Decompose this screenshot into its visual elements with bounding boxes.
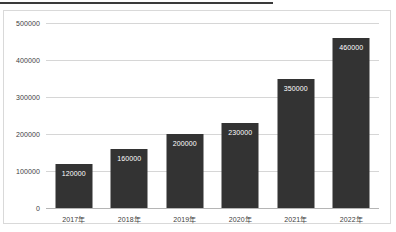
bar-group[interactable]: 1600002018年 — [102, 23, 158, 208]
x-axis-tick-label: 2019年 — [173, 214, 196, 224]
bar-value-label: 120000 — [62, 170, 86, 177]
bar-value-label: 200000 — [173, 140, 197, 147]
bar-value-label: 460000 — [339, 44, 363, 51]
top-divider-rule — [0, 2, 273, 4]
bar[interactable] — [277, 79, 314, 209]
bar-value-label: 230000 — [228, 129, 252, 136]
bar[interactable] — [333, 38, 370, 208]
y-axis-tick-label: 200000 — [16, 131, 40, 138]
bar-group[interactable]: 3500002021年 — [268, 23, 324, 208]
bars-layer: 1200002017年1600002018年2000002019年2300002… — [46, 23, 379, 208]
y-axis-tick-label: 0 — [36, 205, 40, 212]
y-axis-tick-label: 300000 — [16, 94, 40, 101]
bar-group[interactable]: 2300002020年 — [213, 23, 269, 208]
plot-area: 0100000200000300000400000500000 12000020… — [46, 23, 379, 208]
bar-group[interactable]: 4600002022年 — [324, 23, 380, 208]
x-axis-tick-label: 2020年 — [229, 214, 252, 224]
x-axis-tick-label: 2022年 — [340, 214, 363, 224]
bar-group[interactable]: 2000002019年 — [157, 23, 213, 208]
y-axis-tick-label: 500000 — [16, 20, 40, 27]
y-axis-tick-label: 100000 — [16, 168, 40, 175]
chart-frame: 0100000200000300000400000500000 12000020… — [3, 10, 391, 224]
bar-value-label: 160000 — [117, 155, 141, 162]
x-axis-tick-label: 2018年 — [118, 214, 141, 224]
gridline-0 — [46, 208, 379, 209]
x-axis-tick-label: 2017年 — [62, 214, 85, 224]
bar-value-label: 350000 — [284, 85, 308, 92]
x-axis-tick-label: 2021年 — [284, 214, 307, 224]
bar-group[interactable]: 1200002017年 — [46, 23, 102, 208]
y-axis-tick-label: 400000 — [16, 57, 40, 64]
